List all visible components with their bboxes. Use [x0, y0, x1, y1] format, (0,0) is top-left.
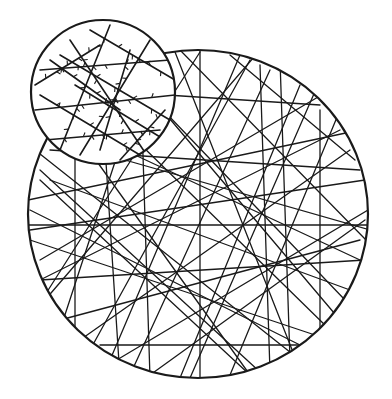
fiber-line — [190, 80, 320, 378]
fiber-line — [280, 60, 290, 360]
fiber-branch — [116, 83, 120, 84]
fiber-network-figure — [0, 0, 392, 399]
fiber-network-diagram — [0, 0, 392, 399]
fiber-line — [150, 220, 365, 375]
fiber-branch — [83, 59, 87, 60]
fiber-line — [60, 240, 360, 320]
fiber-branch — [106, 117, 110, 118]
fiber-branch — [84, 85, 85, 89]
